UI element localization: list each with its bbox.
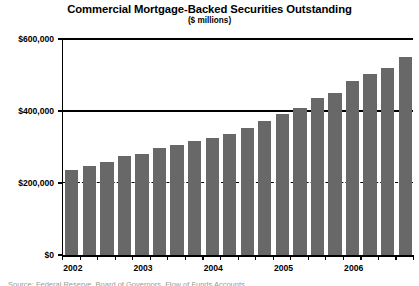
x-tick-mark bbox=[115, 255, 116, 260]
bar bbox=[65, 170, 78, 255]
bar bbox=[328, 93, 341, 255]
bar bbox=[188, 141, 201, 255]
bar bbox=[241, 128, 254, 255]
plot-area: $0$200,000$400,000$600,000 2002200320042… bbox=[62, 39, 413, 255]
bar bbox=[206, 138, 219, 255]
bar bbox=[399, 57, 412, 255]
bar bbox=[100, 162, 113, 255]
bar bbox=[311, 98, 324, 255]
bar-series bbox=[62, 39, 413, 255]
x-tick-mark bbox=[378, 255, 379, 260]
x-tick-mark bbox=[150, 255, 151, 260]
x-tick-mark bbox=[62, 255, 63, 260]
x-tick-mark bbox=[167, 255, 168, 260]
x-tick-mark bbox=[185, 255, 186, 260]
x-tick-mark bbox=[238, 255, 239, 260]
x-tick-label-2005: 2005 bbox=[274, 263, 293, 273]
x-tick-label-2006: 2006 bbox=[344, 263, 363, 273]
x-tick-mark bbox=[413, 255, 414, 260]
bar bbox=[118, 156, 131, 255]
bar bbox=[363, 74, 376, 255]
bar bbox=[135, 154, 148, 255]
x-tick-mark bbox=[202, 255, 203, 260]
y-tick-label: $200,000 bbox=[0, 179, 54, 188]
bar bbox=[258, 121, 271, 255]
x-tick-label-2004: 2004 bbox=[204, 263, 223, 273]
bar bbox=[276, 114, 289, 255]
x-tick-mark bbox=[273, 255, 274, 260]
x-tick-mark bbox=[80, 255, 81, 260]
bar bbox=[83, 166, 96, 255]
y-tick-label: $400,000 bbox=[0, 107, 54, 116]
x-tick-mark bbox=[360, 255, 361, 260]
chart-title: Commercial Mortgage-Backed Securities Ou… bbox=[0, 3, 419, 16]
x-tick-label-2003: 2003 bbox=[134, 263, 153, 273]
chart-figure: Commercial Mortgage-Backed Securities Ou… bbox=[0, 0, 419, 286]
bar bbox=[293, 108, 306, 255]
x-tick-mark bbox=[255, 255, 256, 260]
x-tick-mark bbox=[395, 255, 396, 260]
x-tick-mark bbox=[325, 255, 326, 260]
x-tick-mark bbox=[220, 255, 221, 260]
x-tick-label-2002: 2002 bbox=[63, 263, 82, 273]
x-tick-mark bbox=[132, 255, 133, 260]
x-tick-mark bbox=[308, 255, 309, 260]
cropped-source-caption: Source: Federal Reserve, Board of Govern… bbox=[8, 281, 408, 286]
chart-subtitle: ($ millions) bbox=[0, 16, 419, 26]
x-tick-mark bbox=[290, 255, 291, 260]
y-tick-label: $0 bbox=[0, 251, 54, 260]
bar bbox=[346, 81, 359, 255]
bar bbox=[381, 68, 394, 255]
bar bbox=[170, 145, 183, 255]
bar bbox=[223, 134, 236, 255]
bar bbox=[153, 148, 166, 255]
y-tick-label: $600,000 bbox=[0, 35, 54, 44]
x-tick-mark bbox=[97, 255, 98, 260]
x-tick-mark bbox=[343, 255, 344, 260]
